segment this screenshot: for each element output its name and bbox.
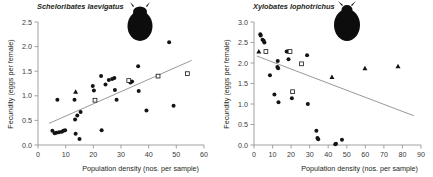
left-ytick-2: 1.0	[22, 91, 32, 100]
data-point-circle	[104, 82, 108, 86]
figure-two-panel-scatter: Scheloribates laevigatus 0.0 0.5	[0, 0, 433, 177]
right-xtick-1: 10	[269, 150, 277, 159]
data-point-circle	[75, 113, 79, 117]
data-point-triangle	[362, 66, 367, 71]
left-chart-svg: Scheloribates laevigatus 0.0 0.5	[0, 0, 216, 177]
left-y-axis-title: Fecundity (eggs per female)	[6, 39, 15, 129]
right-y-ticks: 0.0 0.5 1.0 1.5 2.0 2.5 3.0	[238, 18, 254, 150]
left-ytick-3: 1.5	[22, 67, 32, 76]
panel-xylobates-lophotrichus: Xylobates lophotrichus 0.0 0	[216, 0, 433, 177]
data-point-square	[186, 72, 190, 76]
left-data-points	[50, 40, 189, 141]
data-point-square	[127, 79, 131, 83]
left-ytick-5: 2.5	[22, 18, 32, 27]
left-ytick-1: 0.5	[22, 116, 32, 125]
data-point-circle	[305, 53, 309, 57]
data-point-circle	[272, 93, 276, 97]
data-point-triangle	[395, 64, 400, 69]
right-xtick-5: 50	[343, 150, 351, 159]
data-point-square	[291, 90, 295, 94]
right-ytick-1: 0.5	[238, 120, 248, 129]
left-ytick-4: 2.0	[22, 42, 32, 51]
left-mite-icon	[128, 2, 153, 41]
data-point-circle	[78, 137, 82, 141]
left-ytick-0: 0.0	[22, 141, 32, 150]
right-x-ticks: 0 10 20 30 40 50 60 70 80 90	[252, 145, 425, 159]
right-xtick-4: 40	[324, 150, 332, 159]
data-point-circle	[306, 102, 310, 106]
data-point-circle	[144, 109, 148, 113]
left-xtick-0: 0	[36, 150, 40, 159]
right-axes: 0.0 0.5 1.0 1.5 2.0 2.5 3.0	[238, 18, 425, 160]
right-xtick-2: 20	[287, 150, 295, 159]
data-point-circle	[340, 138, 344, 142]
left-x-axis-title: Population density (nos. per sample)	[82, 164, 199, 173]
data-point-circle	[316, 137, 320, 141]
data-point-circle	[79, 110, 83, 114]
right-xtick-7: 70	[380, 150, 388, 159]
data-point-circle	[115, 98, 119, 102]
panel-scheloribates-laevigatus: Scheloribates laevigatus 0.0 0.5	[0, 0, 216, 177]
data-point-circle	[112, 76, 116, 80]
left-trendline	[49, 60, 192, 123]
data-point-circle	[259, 34, 263, 38]
right-panel-title: Xylobates lophotrichus	[252, 2, 335, 11]
data-point-circle	[334, 142, 338, 146]
right-xtick-9: 90	[417, 150, 425, 159]
data-point-circle	[73, 98, 77, 102]
right-ytick-0: 0.0	[238, 141, 248, 150]
data-point-circle	[172, 104, 176, 108]
right-xtick-8: 80	[398, 150, 406, 159]
right-ytick-6: 3.0	[238, 18, 248, 27]
left-xtick-1: 10	[62, 150, 70, 159]
left-xtick-6: 60	[200, 150, 208, 159]
left-panel-title: Scheloribates laevigatus	[37, 2, 124, 11]
data-point-circle	[287, 57, 291, 61]
data-point-circle	[113, 88, 117, 92]
data-point-circle	[92, 88, 96, 92]
right-trendline	[257, 56, 414, 116]
data-point-circle	[73, 117, 77, 121]
right-xtick-6: 60	[361, 150, 369, 159]
data-point-circle	[55, 98, 59, 102]
data-point-circle	[290, 96, 294, 100]
right-mite-icon	[334, 1, 360, 41]
data-point-circle	[276, 66, 280, 70]
right-xtick-0: 0	[252, 150, 256, 159]
right-chart-svg: Xylobates lophotrichus 0.0 0	[216, 0, 433, 177]
right-x-axis-title: Population density (nos. per sample)	[301, 164, 418, 173]
data-point-triangle	[329, 74, 334, 79]
right-ytick-2: 1.0	[238, 100, 248, 109]
data-point-circle	[276, 59, 280, 63]
right-ytick-3: 1.5	[238, 79, 248, 88]
data-point-square	[264, 50, 268, 54]
left-xtick-2: 20	[89, 150, 97, 159]
left-x-ticks: 0 10 20 30 40 50 60	[36, 145, 208, 159]
data-point-circle	[99, 74, 103, 78]
data-point-square	[300, 62, 304, 66]
left-y-ticks: 0.0 0.5 1.0 1.5 2.0 2.5	[22, 18, 38, 150]
right-ytick-5: 2.5	[238, 38, 248, 47]
data-point-circle	[276, 100, 280, 104]
left-xtick-3: 30	[117, 150, 125, 159]
data-point-circle	[74, 132, 78, 136]
data-point-circle	[100, 128, 104, 132]
data-point-circle	[314, 129, 318, 133]
right-xtick-3: 30	[306, 150, 314, 159]
data-point-square	[93, 98, 97, 102]
data-point-circle	[136, 64, 140, 68]
data-point-square	[156, 74, 160, 78]
data-point-circle	[63, 128, 67, 132]
data-point-circle	[91, 84, 95, 88]
data-point-triangle	[256, 49, 261, 54]
data-point-circle	[167, 40, 171, 44]
left-xtick-4: 40	[145, 150, 153, 159]
data-point-circle	[262, 41, 266, 45]
right-ytick-4: 2.0	[238, 59, 248, 68]
left-xtick-5: 50	[172, 150, 180, 159]
data-point-square	[288, 50, 292, 54]
data-point-circle	[137, 89, 141, 93]
right-data-points	[256, 32, 400, 146]
data-point-triangle	[73, 89, 78, 94]
right-y-axis-title: Fecundity (eggs per female)	[222, 39, 231, 129]
